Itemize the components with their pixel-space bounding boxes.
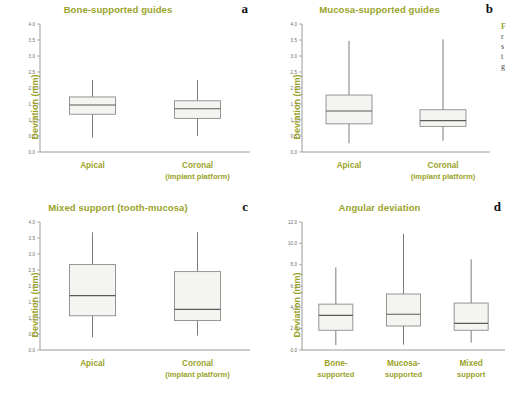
panel-c-plot: Deviation (mm) 0.00.51.01.52.02.53.03.54… xyxy=(0,214,262,396)
svg-text:(implant platform): (implant platform) xyxy=(165,172,230,181)
panel-d-title: Angular deviation xyxy=(262,202,523,213)
svg-text:3.0: 3.0 xyxy=(29,54,36,59)
panel-d-plot: Deviation (mm) 0.02.04.06.08.010.012.0Bo… xyxy=(262,214,523,396)
panel-d-letter: d xyxy=(494,199,501,215)
svg-text:Coronal: Coronal xyxy=(182,161,213,170)
svg-text:(implant platform): (implant platform) xyxy=(411,172,476,181)
panel-a-plot: Deviation (mm) 0.00.51.01.52.02.53.03.54… xyxy=(0,16,262,198)
panel-b-plot: Deviation (mm) 0.00.51.01.52.02.53.03.54… xyxy=(262,16,523,198)
panel-d-ylabel: Deviation (mm) xyxy=(292,272,302,337)
svg-text:0.0: 0.0 xyxy=(291,150,298,155)
panel-a-letter: a xyxy=(242,1,249,17)
svg-text:Apical: Apical xyxy=(80,161,105,170)
svg-text:Apical: Apical xyxy=(80,359,105,368)
panel-c-ylabel: Deviation (mm) xyxy=(30,272,40,337)
svg-text:3.5: 3.5 xyxy=(29,236,36,241)
panel-b-title: Mucosa-supported guides xyxy=(262,4,523,15)
svg-text:12.0: 12.0 xyxy=(288,220,297,225)
side-caption: F r s t g xyxy=(501,22,523,72)
svg-text:0.0: 0.0 xyxy=(29,348,36,353)
svg-text:Apical: Apical xyxy=(337,161,362,170)
panel-b-letter: b xyxy=(486,1,493,17)
panel-d: Angular deviation d Deviation (mm) 0.02.… xyxy=(262,198,523,396)
svg-text:3.5: 3.5 xyxy=(29,38,36,43)
panel-a: Bone-supported guides a Deviation (mm) 0… xyxy=(0,0,262,198)
panel-c-title: Mixed support (tooth-mucosa) xyxy=(0,202,262,213)
panel-a-title: Bone-supported guides xyxy=(0,4,262,15)
svg-text:0.0: 0.0 xyxy=(291,348,298,353)
svg-text:4.0: 4.0 xyxy=(29,220,36,225)
svg-text:0.0: 0.0 xyxy=(29,150,36,155)
svg-text:8.0: 8.0 xyxy=(291,262,298,267)
side-caption-line-5: g xyxy=(501,62,523,72)
panel-c-letter: c xyxy=(242,199,248,215)
svg-text:Coronal: Coronal xyxy=(182,359,213,368)
svg-text:support: support xyxy=(457,370,486,379)
panel-c: Mixed support (tooth-mucosa) c Deviation… xyxy=(0,198,262,396)
svg-text:4.0: 4.0 xyxy=(291,22,298,27)
svg-text:Bone-: Bone- xyxy=(324,359,347,368)
svg-text:(implant platform): (implant platform) xyxy=(165,370,230,379)
svg-text:3.5: 3.5 xyxy=(291,38,298,43)
side-caption-line-2: r xyxy=(501,32,523,42)
panel-a-ylabel: Deviation (mm) xyxy=(30,74,40,139)
panel-b: Mucosa-supported guides b Deviation (mm)… xyxy=(262,0,523,198)
svg-text:Coronal: Coronal xyxy=(428,161,459,170)
svg-text:3.0: 3.0 xyxy=(291,54,298,59)
svg-text:supported: supported xyxy=(317,370,354,379)
svg-text:3.0: 3.0 xyxy=(29,252,36,257)
side-caption-line-4: t xyxy=(501,52,523,62)
svg-text:10.0: 10.0 xyxy=(288,241,297,246)
side-caption-line-1: F xyxy=(501,22,523,32)
boxplot-figure: Bone-supported guides a Deviation (mm) 0… xyxy=(0,0,523,396)
svg-text:Mucosa-: Mucosa- xyxy=(387,359,420,368)
svg-text:supported: supported xyxy=(385,370,422,379)
panel-b-ylabel: Deviation (mm) xyxy=(292,74,302,139)
side-caption-line-3: s xyxy=(501,42,523,52)
svg-text:4.0: 4.0 xyxy=(29,22,36,27)
svg-text:Mixed: Mixed xyxy=(460,359,483,368)
